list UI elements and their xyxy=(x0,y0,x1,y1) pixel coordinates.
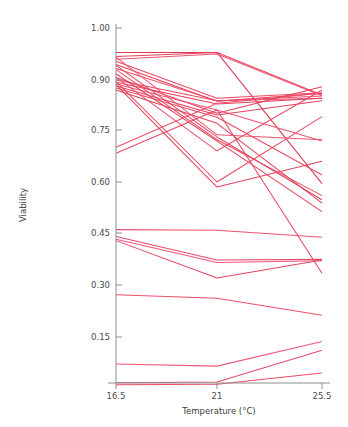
y-tick-label: 0.90 xyxy=(91,75,110,85)
y-tick-label: 0.15 xyxy=(91,332,110,342)
y-tick-label: 0.60 xyxy=(91,177,110,187)
chart-background xyxy=(0,0,348,427)
y-tick-label: 0.30 xyxy=(91,280,110,290)
x-axis-title: Temperature (°C) xyxy=(181,406,255,416)
x-tick-label: 16.5 xyxy=(107,391,126,401)
y-axis-title: Viability xyxy=(18,188,28,222)
x-tick-label: 25.5 xyxy=(313,391,332,401)
y-tick-label: 0.45 xyxy=(91,228,110,238)
x-tick-label: 21 xyxy=(212,391,223,401)
chart-figure: 1.000.900.750.600.450.300.15 16.52125.5 … xyxy=(0,0,348,427)
y-tick-label: 1.00 xyxy=(91,23,110,33)
y-tick-label: 0.75 xyxy=(91,125,110,135)
viability-temperature-line-chart: 1.000.900.750.600.450.300.15 16.52125.5 … xyxy=(0,0,348,427)
